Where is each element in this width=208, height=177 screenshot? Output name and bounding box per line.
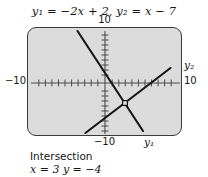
- line-y1: [78, 31, 144, 131]
- axis-label-top: 10: [27, 14, 182, 25]
- intersection-readout: Intersection x = 3 y = −4: [30, 150, 200, 176]
- graphing-calculator-figure: y₁ = −2x + 2, y₂ = x − 7 10 −10 10 −10: [0, 0, 208, 177]
- curve-label-y2: y₂: [184, 59, 194, 71]
- curve-label-y1: y₁: [144, 136, 154, 148]
- calculator-screen: [27, 27, 182, 136]
- axis-label-left: −10: [0, 75, 26, 86]
- axis-label-right: 10: [184, 75, 208, 86]
- readout-values: x = 3 y = −4: [30, 163, 200, 176]
- plot-canvas: [28, 28, 182, 136]
- readout-title: Intersection: [30, 150, 200, 162]
- axis-label-bottom: −10: [27, 136, 182, 147]
- intersection-marker: [123, 101, 128, 106]
